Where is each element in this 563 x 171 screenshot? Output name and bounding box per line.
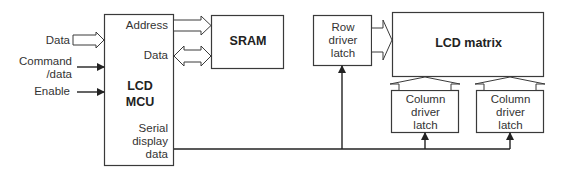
column-driver-2-line2: driver — [477, 106, 544, 119]
row-driver-line2: driver — [314, 34, 372, 47]
column-driver-1-line3: latch — [392, 119, 459, 132]
mcu-title-line1: LCD — [120, 78, 160, 94]
mcu-serial-line1: Serial — [110, 122, 168, 135]
block-diagram-canvas — [0, 0, 563, 171]
row-driver-line1: Row — [314, 21, 372, 34]
mcu-serial-line3: data — [110, 148, 168, 161]
input-command-line2: /data — [8, 68, 72, 81]
row-to-matrix-arrow — [372, 20, 392, 60]
column-driver-1-line2: driver — [392, 106, 459, 119]
mcu-title: LCD MCU — [120, 78, 160, 110]
row-driver-label: Row driver latch — [314, 21, 372, 60]
column-driver-2-line3: latch — [477, 119, 544, 132]
mcu-title-line2: MCU — [120, 94, 160, 110]
column1-to-matrix-arrow — [390, 77, 460, 90]
data-bus-bidirectional-arrow — [174, 46, 211, 66]
data-input-hollow-arrow — [73, 32, 104, 48]
mcu-serial-port-label: Serial display data — [110, 122, 168, 161]
lcd-matrix-label: LCD matrix — [393, 37, 544, 50]
sram-label: SRAM — [212, 35, 284, 48]
mcu-data-port-label: Data — [110, 49, 168, 62]
input-enable-label: Enable — [10, 85, 70, 98]
column-driver-1-label: Column driver latch — [392, 93, 459, 132]
mcu-serial-line2: display — [110, 135, 168, 148]
row-driver-line3: latch — [314, 47, 372, 60]
column2-to-matrix-arrow — [475, 77, 545, 90]
input-command-label: Command /data — [8, 55, 72, 81]
input-data-label: Data — [20, 34, 70, 47]
input-command-line1: Command — [8, 55, 72, 68]
mcu-address-port-label: Address — [110, 19, 168, 32]
column-driver-2-label: Column driver latch — [477, 93, 544, 132]
column-driver-2-line1: Column — [477, 93, 544, 106]
address-bus-arrow — [174, 16, 211, 35]
column-driver-1-line1: Column — [392, 93, 459, 106]
